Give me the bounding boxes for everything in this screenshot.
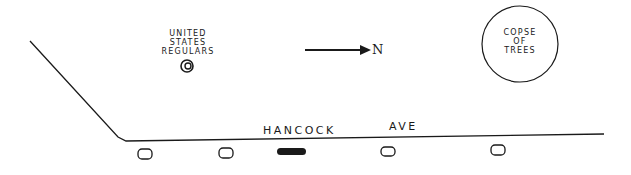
label-line: COPSE: [495, 28, 545, 37]
marker-open-oval: [138, 149, 152, 159]
north-arrow-head: [360, 45, 371, 55]
street-name-hancock: HANCOCK: [263, 124, 336, 137]
north-label: N: [372, 42, 383, 57]
marker-open-oval: [219, 148, 233, 158]
label-line: STATES: [158, 38, 218, 47]
street-name-ave: AVE: [389, 120, 418, 133]
marker-open-oval: [381, 147, 395, 156]
label-line: TREES: [495, 46, 545, 55]
label-line: UNITED: [158, 29, 218, 38]
label-line: OF: [495, 37, 545, 46]
copse-of-trees-label: COPSE OF TREES: [495, 28, 545, 55]
map-drawing: [0, 0, 631, 175]
united-states-regulars-label: UNITED STATES REGULARS: [158, 29, 218, 56]
marker-filled-oval: [277, 148, 306, 155]
label-line: REGULARS: [158, 47, 218, 56]
marker-open-oval: [491, 145, 505, 155]
regulars-symbol-inner: [185, 63, 191, 69]
